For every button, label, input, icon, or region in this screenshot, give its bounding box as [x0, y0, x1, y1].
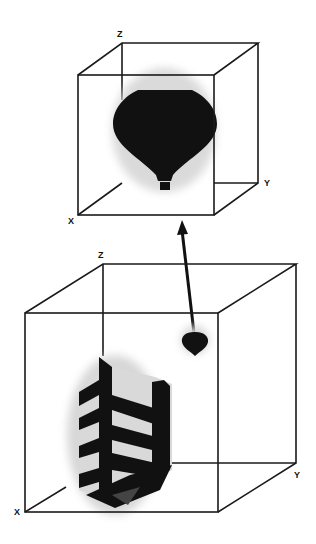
top-cube-x-label: X	[68, 216, 74, 226]
top-cube: Z Y X	[68, 29, 270, 226]
bottom-cube: Z Y X	[14, 250, 300, 517]
balloon-basket-icon	[160, 182, 170, 190]
connector-arrow	[177, 220, 194, 333]
bottom-cube-x-axis	[25, 487, 66, 512]
bottom-cube-y-label: Y	[294, 470, 300, 480]
bottom-cube-x-label: X	[14, 507, 20, 517]
building-icon	[79, 357, 172, 508]
top-cube-right-face	[214, 43, 258, 215]
top-cube-y-label: Y	[264, 178, 270, 188]
top-cube-x-axis	[78, 183, 122, 215]
top-cube-z-label: Z	[117, 29, 123, 39]
bottom-cube-top-face	[25, 264, 296, 313]
bottom-cube-z-label: Z	[98, 250, 104, 260]
diagram-canvas: Z Y X	[0, 0, 316, 544]
small-balloon-icon	[182, 332, 208, 356]
bottom-cube-right-face	[218, 264, 296, 512]
arrow-head-icon	[177, 220, 188, 235]
arrow-shaft	[182, 230, 194, 333]
